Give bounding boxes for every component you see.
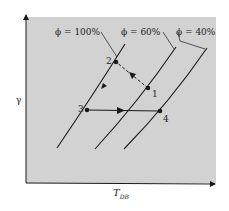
state-point-3 — [85, 108, 90, 113]
x-axis-label: TDB — [113, 187, 129, 200]
curve-label-phi-40: ϕ = 40% — [176, 27, 216, 37]
point-label-1: 1 — [152, 89, 158, 99]
psychrometric-diagram: ϕ = 100% ϕ = 60% ϕ = 40% 1 2 3 4 γ TDB — [0, 0, 229, 211]
point-label-3: 3 — [78, 104, 84, 114]
state-point-1 — [146, 86, 151, 91]
point-label-2: 2 — [106, 56, 112, 66]
curve-label-phi-60: ϕ = 60% — [121, 27, 161, 37]
x-axis-label-sub: DB — [119, 193, 130, 200]
plot-area — [26, 17, 216, 183]
curve-label-phi-100: ϕ = 100% — [55, 27, 101, 37]
state-point-4 — [158, 109, 163, 114]
x-axis — [26, 183, 215, 184]
point-label-4: 4 — [163, 114, 169, 124]
y-axis-label: γ — [16, 95, 21, 105]
state-point-2 — [114, 60, 119, 65]
